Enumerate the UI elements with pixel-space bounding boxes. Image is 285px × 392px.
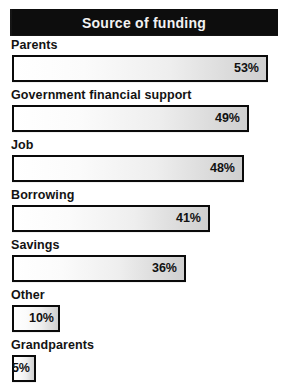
bar-row-label: Savings: [11, 238, 60, 253]
clipped-text-strip: [0, 0, 285, 7]
bar: 5%: [12, 355, 36, 382]
bar: 36%: [12, 255, 186, 282]
bar-row: Grandparents5%: [0, 338, 285, 388]
bar-value-label: 10%: [29, 312, 58, 325]
bar-track: 5%: [12, 355, 36, 382]
funding-source-chart: Source of funding Parents53%Government f…: [0, 0, 285, 392]
bar-value-label: 5%: [12, 362, 34, 375]
bar-value-label: 36%: [152, 262, 184, 275]
bar: 10%: [12, 305, 60, 332]
bar-row: Parents53%: [0, 38, 285, 88]
bar-row: Government financial support49%: [0, 88, 285, 138]
bar-track: 53%: [12, 55, 268, 82]
bar-row-label: Government financial support: [11, 88, 192, 103]
bar-value-label: 48%: [210, 162, 242, 175]
bar: 49%: [12, 105, 249, 132]
bar-value-label: 41%: [176, 212, 208, 225]
bar-track: 36%: [12, 255, 186, 282]
bar-track: 10%: [12, 305, 60, 332]
bar-row-label: Grandparents: [11, 338, 94, 353]
bar-track: 48%: [12, 155, 244, 182]
bar-row: Job48%: [0, 138, 285, 188]
bar-row-label: Borrowing: [11, 188, 74, 203]
chart-title-banner: Source of funding: [10, 9, 278, 36]
bar-row: Savings36%: [0, 238, 285, 288]
bar-value-label: 53%: [234, 62, 266, 75]
bar-track: 41%: [12, 205, 210, 232]
bar-value-label: 49%: [215, 112, 247, 125]
bar-row: Borrowing41%: [0, 188, 285, 238]
page-title: Source of funding: [82, 16, 206, 30]
bar-row-label: Job: [11, 138, 34, 153]
bar-row-label: Other: [11, 288, 45, 303]
bar-rows: Parents53%Government financial support49…: [0, 38, 285, 388]
bar-row-label: Parents: [11, 38, 58, 53]
bar: 41%: [12, 205, 210, 232]
bar: 48%: [12, 155, 244, 182]
bar-row: Other10%: [0, 288, 285, 338]
bar-track: 49%: [12, 105, 249, 132]
bar: 53%: [12, 55, 268, 82]
